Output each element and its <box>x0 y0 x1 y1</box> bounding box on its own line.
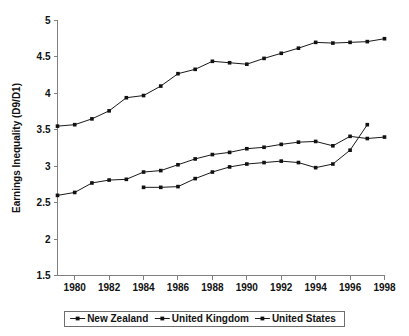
data-point <box>348 41 352 45</box>
series-line <box>58 39 385 126</box>
data-point <box>211 170 215 174</box>
data-point <box>107 109 111 113</box>
data-point <box>228 165 232 169</box>
axis-frame <box>58 21 385 276</box>
data-point <box>125 178 129 182</box>
data-point <box>383 37 387 41</box>
data-point <box>331 41 335 45</box>
data-point <box>90 117 94 121</box>
y-tick-label: 1.5 <box>37 270 51 281</box>
data-point <box>159 186 163 190</box>
y-tick-label: 4 <box>45 88 51 99</box>
data-point <box>107 178 111 182</box>
data-point <box>297 140 301 144</box>
data-point <box>193 157 197 161</box>
y-tick-label: 5 <box>45 15 51 26</box>
data-point <box>348 148 352 152</box>
data-point <box>348 135 352 139</box>
data-point <box>142 186 146 190</box>
series-united-kingdom <box>56 135 387 198</box>
data-point <box>279 159 283 163</box>
data-point <box>262 57 266 61</box>
data-point <box>262 161 266 165</box>
legend-marker-square <box>261 317 265 321</box>
data-point <box>245 147 249 151</box>
data-point <box>262 145 266 149</box>
data-point <box>365 137 369 141</box>
data-point <box>297 161 301 165</box>
data-point <box>176 72 180 76</box>
x-tick-label: 1996 <box>339 282 362 293</box>
x-tick-label: 1988 <box>201 282 224 293</box>
data-point <box>365 123 369 127</box>
data-point <box>314 41 318 45</box>
x-tick-label: 1986 <box>167 282 190 293</box>
data-point <box>56 124 60 128</box>
data-point <box>73 123 77 127</box>
data-point <box>56 194 60 198</box>
data-point <box>314 140 318 144</box>
series-layer <box>56 37 387 197</box>
data-point <box>193 177 197 181</box>
legend-marker-square <box>160 317 164 321</box>
data-point <box>142 170 146 174</box>
legend-label: New Zealand <box>87 313 148 324</box>
y-axis: 1.522.533.544.55 <box>37 15 58 281</box>
x-tick-label: 1990 <box>236 282 259 293</box>
data-point <box>365 40 369 44</box>
data-point <box>193 68 197 72</box>
y-axis-title-label: Earnings Inequality (D9/D1) <box>11 83 22 213</box>
data-point <box>314 166 318 170</box>
x-tick-label: 1994 <box>305 282 328 293</box>
y-tick-label: 2.5 <box>37 197 51 208</box>
plot-axes <box>58 21 385 276</box>
earnings-inequality-line-chart: 1.522.533.544.55 19801982198419861988199… <box>0 0 409 336</box>
data-point <box>90 181 94 185</box>
data-point <box>331 162 335 166</box>
data-point <box>383 135 387 139</box>
legend-label: United Kingdom <box>172 313 249 324</box>
data-point <box>245 62 249 66</box>
data-point <box>279 143 283 147</box>
data-point <box>331 144 335 148</box>
data-point <box>297 46 301 50</box>
data-point <box>245 162 249 166</box>
data-point <box>73 191 77 195</box>
data-point <box>211 153 215 157</box>
y-tick-label: 2 <box>45 234 51 245</box>
data-point <box>159 84 163 88</box>
data-point <box>279 51 283 55</box>
data-point <box>211 60 215 64</box>
series-united-states <box>56 37 387 128</box>
series-line <box>144 125 368 188</box>
y-tick-label: 4.5 <box>37 51 51 62</box>
x-tick-label: 1980 <box>64 282 87 293</box>
data-point <box>228 151 232 155</box>
x-tick-label: 1984 <box>132 282 155 293</box>
data-point <box>228 61 232 65</box>
series-new-zealand <box>142 123 369 189</box>
data-point <box>159 169 163 173</box>
data-point <box>176 163 180 167</box>
chart-figure: 1.522.533.544.55 19801982198419861988199… <box>0 0 409 336</box>
data-point <box>142 94 146 98</box>
series-line <box>58 136 385 195</box>
x-axis: 1980198219841986198819901992199419961998 <box>64 276 396 293</box>
y-tick-label: 3 <box>45 161 51 172</box>
y-axis-title: Earnings Inequality (D9/D1) <box>11 83 22 213</box>
y-tick-label: 3.5 <box>37 124 51 135</box>
data-point <box>125 96 129 100</box>
x-tick-label: 1982 <box>98 282 121 293</box>
x-tick-label: 1992 <box>270 282 293 293</box>
chart-legend[interactable]: New ZealandUnited KingdomUnited States <box>64 311 345 326</box>
x-tick-label: 1998 <box>373 282 396 293</box>
legend-marker-square <box>76 317 80 321</box>
data-point <box>176 185 180 189</box>
legend-label: United States <box>272 313 336 324</box>
